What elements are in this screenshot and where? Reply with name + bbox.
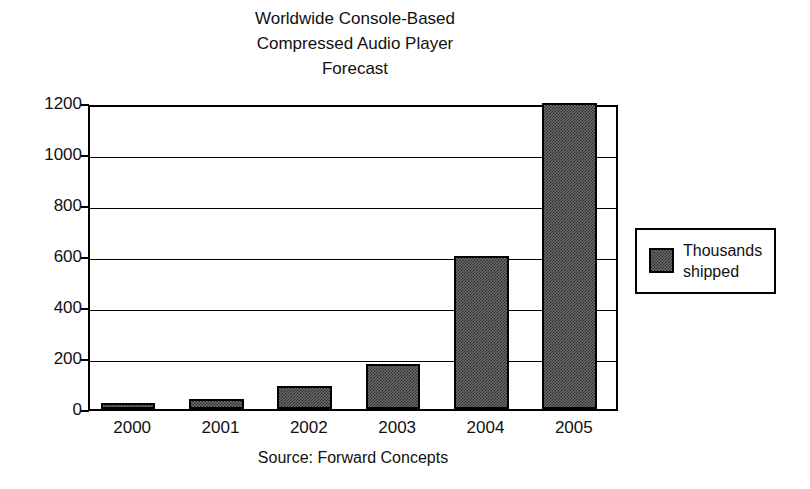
bar [101,403,156,409]
legend-swatch-icon [649,248,674,273]
bar [366,364,421,409]
y-axis-tick-label: 0 [12,400,82,420]
y-axis-tick-label: 800 [12,196,82,216]
y-axis-tick-label: 600 [12,247,82,267]
x-axis-tick-label: 2000 [88,418,176,438]
legend-label: Thousands shipped [683,240,775,282]
bar [542,103,597,409]
bar-column [532,107,620,409]
y-axis-tick-label: 400 [12,298,82,318]
source-note: Source: Forward Concepts [88,449,618,467]
plot-area [88,105,618,411]
x-axis-tick-label: 2003 [353,418,441,438]
y-axis-tick-label: 1000 [12,145,82,165]
bar-column [355,107,443,409]
chart-page: Worldwide Console-Based Compressed Audio… [0,0,810,489]
bar-column [90,107,178,409]
y-axis-tick-label: 1200 [12,94,82,114]
bar [189,399,244,409]
chart-title: Worldwide Console-Based Compressed Audio… [140,6,570,81]
x-axis-tick-label: 2004 [441,418,529,438]
y-axis-tick-label: 200 [12,349,82,369]
bar-column [443,107,531,409]
bar [454,256,509,409]
bar [277,386,332,409]
plot-inner [90,107,616,409]
x-axis-tick-label: 2001 [176,418,264,438]
bar-column [178,107,266,409]
legend: Thousands shipped [635,228,776,294]
x-axis-tick-label: 2005 [530,418,618,438]
bar-column [267,107,355,409]
x-axis-tick-label: 2002 [265,418,353,438]
